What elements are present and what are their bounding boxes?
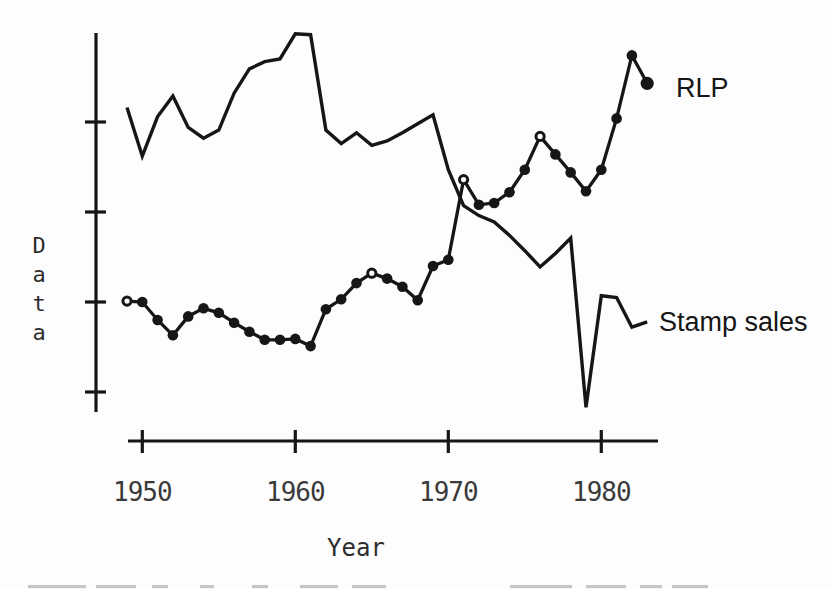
cropped-caption-mark [200, 585, 214, 588]
cropped-caption-mark [152, 585, 168, 588]
x-tick-label: 1970 [419, 477, 478, 507]
cropped-caption-mark [672, 585, 708, 588]
rlp-marker [336, 294, 347, 305]
rlp-marker [214, 308, 225, 319]
rlp-open-marker [368, 269, 376, 277]
rlp-series-label: RLP [676, 73, 729, 103]
rlp-marker [305, 341, 316, 352]
rlp-marker [168, 330, 179, 341]
rlp-line [127, 55, 647, 346]
rlp-marker [581, 186, 592, 197]
chart-canvas: 1950196019701980 Data Year RLP Stamp sal… [0, 0, 832, 589]
stamp-sales-line [127, 34, 647, 408]
tick-labels-group: 1950196019701980 [113, 477, 631, 507]
x-axis-title: Year [327, 534, 385, 562]
rlp-marker [244, 326, 255, 337]
rlp-marker [198, 303, 209, 314]
cropped-caption-mark [352, 585, 386, 588]
x-tick-label: 1960 [266, 477, 325, 507]
rlp-open-marker [536, 132, 544, 140]
rlp-marker [397, 281, 408, 292]
cropped-caption-mark [252, 585, 268, 588]
rlp-marker [152, 315, 163, 326]
scanned-chart-figure: 1950196019701980 Data Year RLP Stamp sal… [0, 0, 832, 589]
rlp-marker [611, 113, 622, 124]
rlp-marker [565, 167, 576, 178]
rlp-marker [641, 77, 654, 90]
rlp-marker [412, 295, 423, 306]
rlp-marker [321, 304, 332, 315]
x-tick-label: 1980 [572, 477, 631, 507]
rlp-marker [489, 198, 500, 209]
rlp-open-marker [123, 297, 131, 305]
cropped-caption-mark [96, 585, 136, 588]
rlp-marker [428, 261, 439, 272]
rlp-open-marker [460, 176, 468, 184]
rlp-marker [520, 164, 531, 175]
rlp-marker [443, 254, 454, 265]
cropped-caption-mark [510, 585, 572, 588]
stamp-series-label: Stamp sales [659, 307, 808, 337]
rlp-marker [229, 317, 240, 328]
rlp-marker [550, 149, 561, 160]
rlp-marker [183, 311, 194, 322]
series-group [127, 34, 647, 408]
y-axis-title-letter: a [32, 262, 45, 287]
cropped-caption-mark [586, 585, 626, 588]
rlp-marker [290, 334, 301, 345]
rlp-marker [627, 50, 638, 61]
rlp-marker [382, 273, 393, 284]
x-tick-label: 1950 [113, 477, 172, 507]
y-axis-title-letter: D [32, 233, 45, 258]
rlp-marker [504, 187, 515, 198]
y-axis-title-letter: a [32, 320, 45, 345]
cropped-caption-mark [640, 585, 662, 588]
rlp-marker [596, 164, 607, 175]
cropped-caption-mark [28, 585, 86, 588]
rlp-marker [137, 297, 148, 308]
rlp-marker [474, 200, 485, 211]
scan-artifacts-group [28, 585, 708, 588]
y-axis-label-group: Data [32, 233, 45, 345]
rlp-marker [275, 335, 286, 346]
rlp-marker [259, 335, 270, 346]
rlp-marker [351, 278, 362, 289]
y-axis-title-letter: t [32, 291, 45, 316]
cropped-caption-mark [300, 585, 338, 588]
markers-group [123, 50, 654, 351]
